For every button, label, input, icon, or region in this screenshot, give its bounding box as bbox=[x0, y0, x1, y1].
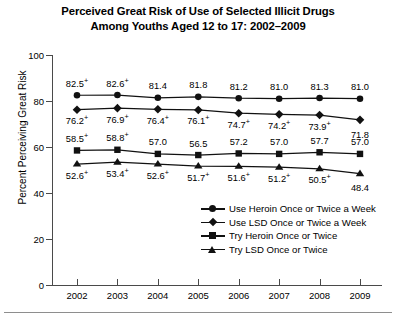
legend-item-3: Try Heroin Once or Twice bbox=[200, 229, 376, 243]
legend-item-4: Try LSD Once or Twice bbox=[200, 243, 376, 257]
data-point-marker bbox=[316, 149, 322, 155]
data-point-label: 48.4 bbox=[330, 183, 390, 193]
diamond-marker bbox=[200, 216, 226, 228]
data-point-marker bbox=[195, 152, 201, 158]
legend-label: Use Heroin Once or Twice a Week bbox=[226, 203, 376, 214]
data-point-marker bbox=[236, 150, 242, 156]
data-point-marker bbox=[357, 151, 363, 157]
data-point-marker bbox=[113, 104, 122, 113]
data-point-marker bbox=[113, 158, 121, 165]
legend-symbol bbox=[208, 246, 216, 253]
data-point-marker bbox=[356, 116, 365, 125]
data-point-label: 57.0 bbox=[330, 137, 390, 147]
legend-item-1: Use Heroin Once or Twice a Week bbox=[200, 202, 376, 216]
data-point-marker bbox=[73, 160, 81, 167]
circle-marker bbox=[200, 203, 226, 215]
data-point-marker bbox=[235, 95, 242, 102]
data-point-marker bbox=[275, 163, 283, 170]
data-point-marker bbox=[194, 162, 202, 169]
chart-figure: Perceived Great Risk of Use of Selected … bbox=[0, 0, 396, 327]
legend-symbol bbox=[209, 205, 216, 212]
data-point-marker bbox=[195, 94, 202, 101]
data-point-marker bbox=[155, 94, 162, 101]
data-point-marker bbox=[316, 95, 323, 102]
data-point-marker bbox=[154, 160, 162, 167]
series-layer bbox=[0, 0, 396, 327]
data-point-marker bbox=[276, 151, 282, 157]
footer-rule bbox=[4, 312, 392, 313]
data-point-marker bbox=[235, 162, 243, 169]
data-point-marker bbox=[275, 110, 284, 119]
data-point-marker bbox=[155, 151, 161, 157]
data-point-marker bbox=[74, 92, 81, 99]
legend-symbol bbox=[209, 232, 216, 239]
square-marker bbox=[200, 230, 226, 242]
data-point-marker bbox=[73, 105, 82, 114]
series-circle bbox=[74, 92, 364, 102]
data-point-marker bbox=[114, 147, 120, 153]
data-point-marker bbox=[315, 165, 323, 172]
legend-label: Use LSD Once or Twice a Week bbox=[226, 217, 366, 228]
data-point-marker bbox=[357, 95, 364, 102]
data-point-marker bbox=[114, 92, 121, 99]
data-point-marker bbox=[234, 109, 243, 118]
legend-label: Try LSD Once or Twice bbox=[226, 244, 328, 255]
legend-symbol bbox=[208, 218, 216, 226]
legend-item-2: Use LSD Once or Twice a Week bbox=[200, 216, 376, 230]
data-point-marker bbox=[276, 95, 283, 102]
data-point-marker bbox=[315, 111, 324, 120]
data-point-marker bbox=[154, 105, 163, 114]
data-point-marker bbox=[194, 106, 203, 115]
data-point-label: 81.0 bbox=[330, 82, 390, 92]
data-point-marker bbox=[74, 147, 80, 153]
legend-label: Try Heroin Once or Twice bbox=[226, 230, 337, 241]
triangle-marker bbox=[200, 243, 226, 255]
chart-legend: Use Heroin Once or Twice a WeekUse LSD O… bbox=[200, 202, 376, 256]
